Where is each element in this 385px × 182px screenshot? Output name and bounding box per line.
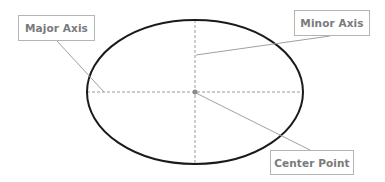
minor-axis-leader (196, 36, 330, 55)
center-point-label-text: Center Point (274, 157, 349, 169)
center-point-label: Center Point (270, 150, 354, 175)
major-axis-label-text: Major Axis (25, 22, 88, 34)
minor-axis-label-text: Minor Axis (300, 17, 363, 29)
minor-axis-label: Minor Axis (294, 10, 370, 36)
major-axis-label: Major Axis (18, 15, 95, 41)
major-axis-leader (57, 41, 104, 92)
